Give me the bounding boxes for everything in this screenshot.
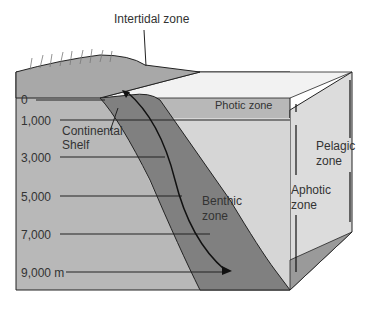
depth-5000: 5,000 xyxy=(21,191,51,204)
benthic-zone-label-1: Benthic xyxy=(202,195,242,208)
depth-3000: 3,000 xyxy=(21,152,51,165)
pelagic-zone-label-1: Pelagic xyxy=(316,140,355,153)
benthic-zone-label-2: zone xyxy=(202,210,228,223)
depth-7000: 7,000 xyxy=(21,229,51,242)
pelagic-zone-label-2: zone xyxy=(316,155,342,168)
depth-9000: 9,000 m xyxy=(21,267,64,280)
depth-1000: 1,000 xyxy=(21,115,51,128)
continental-shelf-label-2: Shelf xyxy=(62,139,89,152)
depth-0: 0 xyxy=(21,94,28,107)
photic-zone-label: Photic zone xyxy=(215,99,272,112)
aphotic-zone-label-2: zone xyxy=(291,199,317,212)
intertidal-zone-label: Intertidal zone xyxy=(114,13,189,26)
continental-shelf-label-1: Continental xyxy=(62,125,123,138)
intertidal-pointer xyxy=(144,30,146,66)
aphotic-zone-label-1: Aphotic xyxy=(291,184,331,197)
